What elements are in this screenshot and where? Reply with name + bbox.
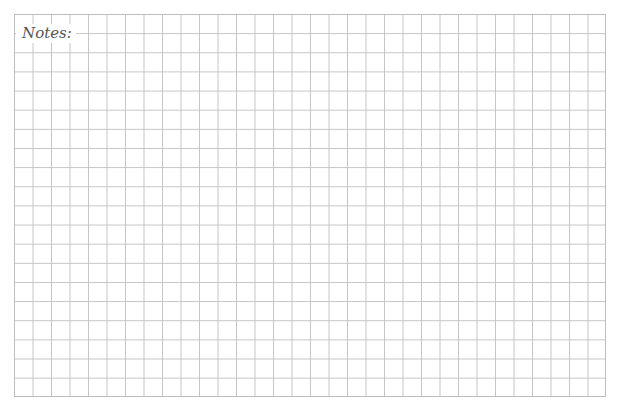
notes-label: Notes: [16,24,76,43]
notes-grid [14,14,606,397]
